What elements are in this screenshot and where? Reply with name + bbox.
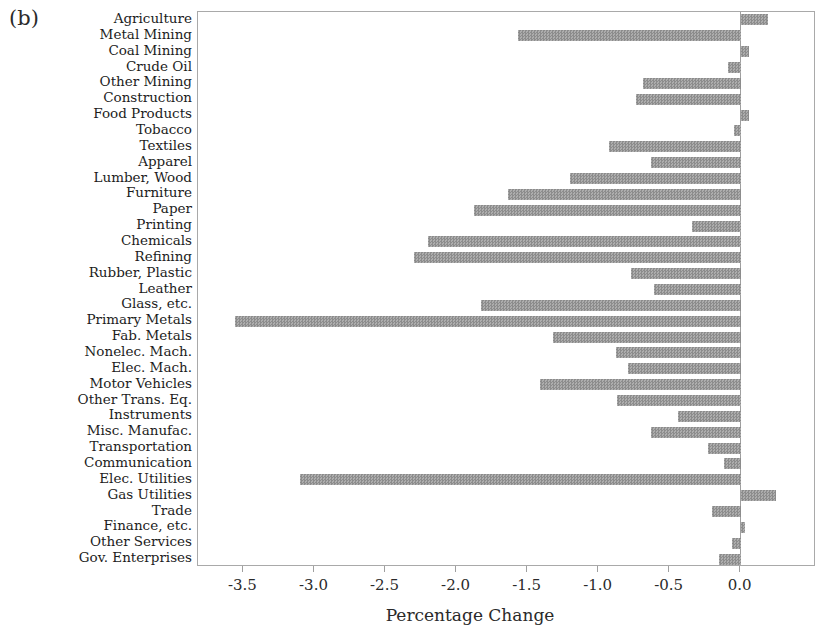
x-tick-label: -1.0 [568,576,628,594]
bar-chart-figure: (b) AgricultureMetal MiningCoal MiningCr… [0,0,820,635]
category-label: Furniture [0,185,192,201]
bar-transportation [708,443,741,454]
bar-lumber-wood [570,173,740,184]
bar-trade [712,506,740,517]
bar-metal-mining [518,30,741,41]
bar-instruments [678,411,741,422]
category-label: Agriculture [0,11,192,27]
category-label: Fab. Metals [0,328,192,344]
category-label: Elec. Utilities [0,471,192,487]
x-tick-mark [384,566,385,572]
x-tick-mark [313,566,314,572]
category-label: Apparel [0,154,192,170]
category-label: Transportation [0,439,192,455]
category-label: Elec. Mach. [0,360,192,376]
x-tick-label: -3.0 [283,576,343,594]
category-label: Construction [0,90,192,106]
category-label: Gas Utilities [0,487,192,503]
category-label: Communication [0,455,192,471]
bar-printing [692,221,740,232]
bar-coal-mining [741,46,750,57]
bar-leather [654,284,741,295]
category-label: Other Trans. Eq. [0,392,192,408]
category-label: Tobacco [0,122,192,138]
x-tick-label: 0.0 [710,576,770,594]
bar-other-services [732,538,741,549]
x-tick-label: -0.5 [639,576,699,594]
bar-food-products [741,110,750,121]
bar-crude-oil [728,62,741,73]
bar-tobacco [734,125,741,136]
category-label: Metal Mining [0,27,192,43]
bar-motor-vehicles [540,379,740,390]
category-label: Motor Vehicles [0,376,192,392]
x-tick-mark [455,566,456,572]
category-label: Chemicals [0,233,192,249]
bar-apparel [651,157,741,168]
category-label: Printing [0,217,192,233]
bar-other-trans-eq [617,395,741,406]
x-axis-title: Percentage Change [120,605,820,625]
category-label: Gov. Enterprises [0,550,192,566]
category-label: Lumber, Wood [0,170,192,186]
category-label: Crude Oil [0,59,192,75]
x-tick-mark [739,566,740,572]
bar-paper [474,205,741,216]
bar-primary-metals [235,316,741,327]
bar-chemicals [428,236,741,247]
category-label: Textiles [0,138,192,154]
bar-elec-utilities [300,474,740,485]
category-label: Misc. Manufac. [0,423,192,439]
bar-finance-etc [741,522,745,533]
category-label: Food Products [0,106,192,122]
bar-gov-enterprises [719,554,740,565]
category-label: Leather [0,281,192,297]
bar-rubber-plastic [631,268,740,279]
x-tick-label: -2.0 [426,576,486,594]
bar-communication [724,458,741,469]
bar-agriculture [741,14,768,25]
bar-glass-etc [481,300,741,311]
category-label: Trade [0,503,192,519]
category-label: Refining [0,249,192,265]
category-label: Instruments [0,407,192,423]
bar-construction [636,94,741,105]
x-tick-mark [668,566,669,572]
bar-refining [414,252,741,263]
category-label: Primary Metals [0,312,192,328]
category-label: Rubber, Plastic [0,265,192,281]
x-tick-label: -1.5 [497,576,557,594]
bar-gas-utilities [741,490,777,501]
bar-nonelec-mach [616,347,741,358]
category-label: Coal Mining [0,43,192,59]
category-label: Other Mining [0,74,192,90]
x-tick-label: -2.5 [355,576,415,594]
x-tick-mark [597,566,598,572]
bar-misc-manufac [651,427,741,438]
category-label: Other Services [0,534,192,550]
category-label: Paper [0,201,192,217]
bar-fab-metals [553,332,741,343]
category-label: Finance, etc. [0,518,192,534]
x-tick-mark [526,566,527,572]
bar-other-mining [643,78,741,89]
category-label: Nonelec. Mach. [0,344,192,360]
bar-elec-mach [628,363,740,374]
bar-textiles [609,141,741,152]
bar-furniture [508,189,741,200]
x-tick-label: -3.5 [212,576,272,594]
category-label: Glass, etc. [0,296,192,312]
plot-area [197,11,815,566]
x-tick-mark [242,566,243,572]
